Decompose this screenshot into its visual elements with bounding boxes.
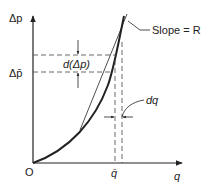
mean-pressure-label: Δp̄ <box>9 67 22 79</box>
pressure-flow-curve <box>33 16 124 163</box>
slope-leader <box>128 21 150 30</box>
pressure-increment-label: d(Δp) <box>63 58 90 70</box>
flow-resistance-diagram: Δp q O Δp̄ d(Δp) dq q̄ Slope = R <box>0 0 214 190</box>
x-axis-label: q <box>174 170 181 182</box>
mean-flow-label: q̄ <box>111 167 118 179</box>
slope-label: Slope = R <box>152 24 201 36</box>
flow-increment-label: dq <box>146 94 159 106</box>
tangent-line <box>80 14 127 130</box>
origin-label: O <box>25 166 34 178</box>
y-axis-label: Δp <box>9 12 22 24</box>
flow-increment-leader <box>122 100 144 117</box>
